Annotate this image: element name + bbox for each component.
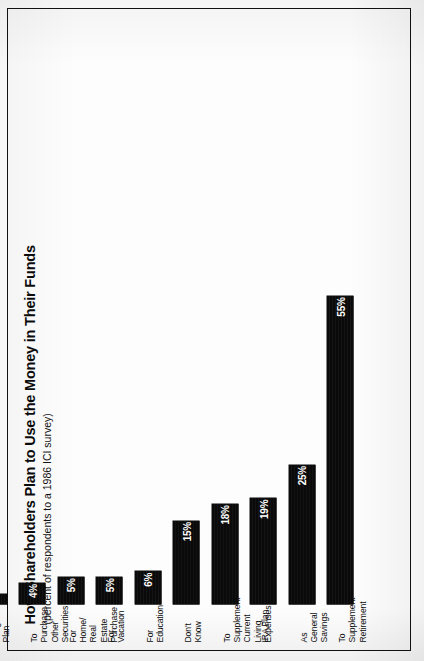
bar — [0, 593, 7, 604]
rotated-figure-canvas: How Shareholders Plan to Use the Money i… — [8, 9, 410, 650]
category-label: For Home/ Real Estate Purchase — [67, 608, 119, 642]
bar-value-label: 6% — [143, 572, 153, 596]
bar-value-label: 19% — [259, 499, 269, 523]
plot-area: 55%To Supplement Retirement25%As General… — [8, 9, 410, 650]
category-label: As General Savings — [298, 608, 329, 642]
category-label: To Supplement Current Living Expenses — [221, 608, 273, 642]
bar-value-label: 5% — [105, 578, 115, 602]
scanned-page: How Shareholders Plan to Use the Money i… — [0, 0, 424, 661]
figure-frame: How Shareholders Plan to Use the Money i… — [7, 8, 411, 651]
bar-value-label: 18% — [220, 505, 230, 529]
category-label: To Purchase Other Securities — [28, 608, 70, 642]
bar-value-label: 55% — [336, 297, 346, 321]
bar-value-label: 15% — [182, 522, 192, 546]
category-label: Keogh Plan — [0, 608, 10, 642]
bar-value-label: 5% — [66, 578, 76, 602]
category-label: To Supplement Retirement — [336, 608, 367, 642]
bar-value-label: 4% — [28, 584, 38, 608]
bar — [326, 295, 353, 604]
category-label: Don't Know — [182, 608, 203, 642]
category-label: For Education — [144, 608, 165, 642]
bar-value-label: 25% — [297, 466, 307, 490]
